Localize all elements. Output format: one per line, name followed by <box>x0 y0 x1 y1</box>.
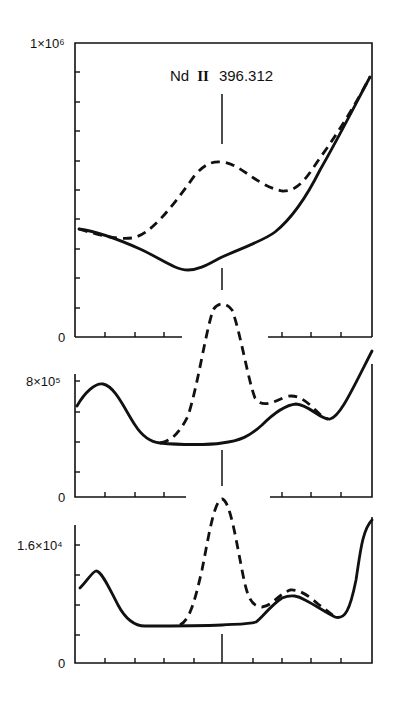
panel-middle-left-axis <box>75 374 186 497</box>
panel-middle-dashed-curve <box>160 304 328 443</box>
panel-bottom: 1.6×10⁴ 0 <box>17 499 372 671</box>
panel-middle-ymin-label: 0 <box>58 490 65 505</box>
panel-bottom-axes <box>75 517 372 663</box>
panel-top-frame <box>75 43 372 337</box>
panel-bottom-ymax-label: 1.6×10⁴ <box>17 538 63 553</box>
panel-bottom-dashed-curve <box>180 499 335 625</box>
panel-middle-ymax-label: 8×10⁵ <box>26 374 61 389</box>
panel-top: 1×10⁶ 0 NdII396.312 <box>30 36 372 345</box>
panel-middle: 8×10⁵ 0 <box>26 304 372 505</box>
panel-top-solid-curve <box>79 77 370 270</box>
panel-middle-solid-curve <box>77 351 372 445</box>
line-title: NdII396.312 <box>170 67 273 84</box>
panel-top-ymax-label: 1×10⁶ <box>30 36 65 51</box>
panel-top-ymin-label: 0 <box>58 330 65 345</box>
spectral-line-figure: 1×10⁶ 0 NdII396.312 <box>0 0 395 703</box>
panel-bottom-ymin-label: 0 <box>58 656 65 671</box>
